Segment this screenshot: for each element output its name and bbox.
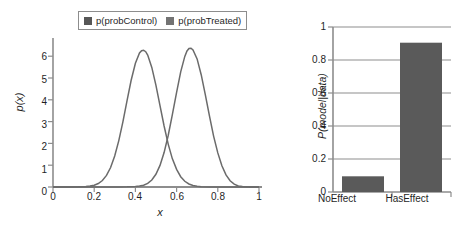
right-ytick-1: 1: [302, 21, 326, 32]
left-ytick-3: 3: [31, 119, 47, 130]
right-xtick-no-effect: NoEffect: [304, 193, 370, 204]
square-swatch-icon: [166, 17, 174, 25]
right-xtick-has-effect: HasEffect: [372, 193, 442, 204]
figure-canvas: p(probControl) p(probTreated) p(x) 0 1 2…: [0, 0, 462, 227]
bar-has-effect: [400, 43, 442, 192]
square-swatch-icon: [84, 17, 92, 25]
posterior-panel: P(model|data) 1 0.8 0.6 0.4 0.2 0 NoEffe…: [290, 0, 462, 227]
left-xtick-5: 1: [244, 191, 274, 202]
right-ytick-0-6: 0.6: [302, 87, 326, 98]
left-ytick-6: 6: [31, 51, 47, 62]
legend-label-prob-treated: p(probTreated): [178, 16, 241, 26]
left-ytick-4: 4: [31, 96, 47, 107]
left-y-axis-label: p(x): [13, 79, 25, 125]
left-xtick-0: 0: [38, 191, 68, 202]
left-ytick-5: 5: [31, 74, 47, 85]
left-xtick-4: 0.8: [203, 191, 233, 202]
right-ytick-0-2: 0.2: [302, 153, 326, 164]
curve-prob-treated: [53, 48, 259, 187]
right-ytick-0-8: 0.8: [302, 54, 326, 65]
density-panel: p(probControl) p(probTreated) p(x) 0 1 2…: [0, 0, 290, 227]
legend-entry-prob-treated: p(probTreated): [166, 16, 241, 26]
left-x-axis-label: x: [55, 206, 265, 218]
left-xtick-1: 0.2: [79, 191, 109, 202]
right-ytick-0-4: 0.4: [302, 120, 326, 131]
legend-label-prob-control: p(probControl): [96, 16, 157, 26]
left-ytick-1: 1: [31, 164, 47, 175]
left-xtick-3: 0.6: [162, 191, 192, 202]
legend-entry-prob-control: p(probControl): [84, 16, 157, 26]
left-ytick-2: 2: [31, 141, 47, 152]
legend: p(probControl) p(probTreated): [78, 11, 247, 30]
left-xtick-2: 0.4: [120, 191, 150, 202]
bar-no-effect: [342, 176, 384, 192]
curve-prob-control: [53, 50, 259, 187]
right-y-axis-label: P(model|data): [316, 51, 328, 161]
